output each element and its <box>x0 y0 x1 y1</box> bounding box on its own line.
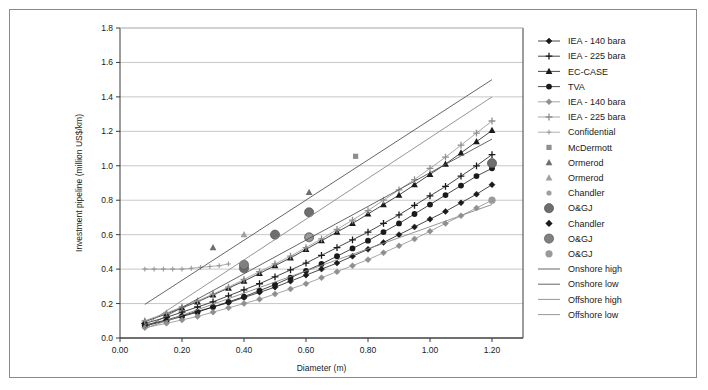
data-marker <box>396 243 402 249</box>
data-marker <box>546 114 553 121</box>
legend-item[interactable]: O&GJ <box>544 203 592 213</box>
legend-label: Ormerod <box>568 173 604 183</box>
data-marker <box>411 202 418 209</box>
data-marker <box>473 162 480 169</box>
data-marker <box>458 142 465 149</box>
legend-item[interactable]: McDermott <box>546 143 612 153</box>
legend-item[interactable]: Offshore low <box>538 310 619 320</box>
y-tick-label: 0.2 <box>101 299 113 309</box>
data-marker <box>288 286 294 292</box>
data-marker <box>546 145 551 150</box>
legend-label: O&GJ <box>568 203 593 213</box>
data-marker <box>488 197 495 204</box>
legend-item[interactable]: IEA - 140 bara <box>538 36 626 46</box>
data-marker <box>489 151 496 158</box>
data-series <box>141 127 495 324</box>
gridlines <box>120 28 523 338</box>
legend-item[interactable]: IEA - 225 bara <box>538 112 626 122</box>
legend-item[interactable]: TVA <box>538 82 585 92</box>
x-axis-title: Diameter (m) <box>297 363 347 373</box>
legend-item[interactable]: EC-CASE <box>538 67 608 77</box>
data-marker <box>473 130 480 137</box>
data-series <box>241 236 311 268</box>
legend-item[interactable]: Offshore high <box>538 295 622 305</box>
legend-label: IEA - 140 bara <box>568 36 626 46</box>
legend-label: O&GJ <box>568 234 593 244</box>
legend-label: Onshore low <box>568 279 619 289</box>
legend-item[interactable]: Ormerod <box>546 173 604 183</box>
data-marker <box>334 244 341 251</box>
y-tick-label: 0.4 <box>101 264 113 274</box>
data-marker <box>350 246 356 252</box>
y-tick-label: 1.6 <box>101 57 113 67</box>
data-marker <box>208 264 213 269</box>
data-marker <box>241 231 248 237</box>
legend-label: IEA - 225 bara <box>568 51 626 61</box>
data-marker <box>272 261 279 268</box>
legend-label: McDermott <box>568 143 613 153</box>
legend-label: Offshore low <box>568 310 619 320</box>
data-marker <box>546 84 552 90</box>
data-marker <box>474 173 480 179</box>
data-marker <box>272 291 278 297</box>
series-line <box>145 139 492 328</box>
legend-item[interactable]: IEA - 140 bara <box>538 97 626 107</box>
data-marker <box>334 253 340 259</box>
data-marker <box>427 228 433 234</box>
data-marker <box>546 159 553 165</box>
data-marker <box>412 211 418 217</box>
data-marker <box>546 38 552 44</box>
y-tick-label: 0.6 <box>101 230 113 240</box>
y-tick-label: 1.8 <box>101 23 113 33</box>
y-tick-label: 1.2 <box>101 126 113 136</box>
legend-label: IEA - 140 bara <box>568 97 626 107</box>
data-marker <box>381 229 387 235</box>
data-marker <box>544 204 553 213</box>
legend-item[interactable]: Confidential <box>538 127 616 137</box>
data-marker <box>443 192 449 198</box>
data-marker <box>396 211 403 218</box>
data-marker <box>241 294 247 300</box>
data-marker <box>544 234 553 243</box>
data-marker <box>547 130 552 135</box>
data-marker <box>142 267 147 272</box>
data-marker <box>458 173 465 180</box>
data-marker <box>256 280 263 287</box>
data-marker <box>427 216 433 222</box>
data-marker <box>427 202 433 208</box>
data-marker <box>396 221 402 227</box>
data-marker <box>318 252 325 259</box>
data-series <box>141 118 495 325</box>
data-marker <box>319 266 325 272</box>
data-marker <box>217 263 222 268</box>
data-marker <box>443 208 449 214</box>
legend-item[interactable]: O&GJ <box>545 249 592 259</box>
data-marker <box>210 244 217 250</box>
legend-item[interactable]: Ormerod <box>546 158 604 168</box>
data-marker <box>380 220 387 227</box>
data-marker <box>303 260 310 267</box>
series-line <box>145 264 229 269</box>
legend-label: O&GJ <box>568 249 593 259</box>
legend-item[interactable]: O&GJ <box>544 234 592 244</box>
data-series <box>353 154 358 159</box>
data-marker <box>489 118 496 125</box>
legend-item[interactable]: Onshore high <box>538 264 622 274</box>
y-tick-label: 1.0 <box>101 161 113 171</box>
data-marker <box>334 269 340 275</box>
x-axis-ticks: 0.000.200.400.600.801.001.20 <box>112 338 501 355</box>
data-marker <box>272 273 279 280</box>
legend-label: Chandler <box>568 219 605 229</box>
legend-item[interactable]: IEA - 225 bara <box>538 51 626 61</box>
data-marker <box>458 200 464 206</box>
x-tick-label: 0.40 <box>236 345 253 355</box>
legend-item[interactable]: Chandler <box>545 219 604 229</box>
data-series <box>142 262 231 272</box>
legend-label: Ormerod <box>568 158 604 168</box>
y-tick-label: 0.8 <box>101 195 113 205</box>
y-axis-title: Investment pipeline (million US$/km) <box>74 114 84 252</box>
legend-item[interactable]: Onshore low <box>538 279 619 289</box>
legend-item[interactable]: Chandler <box>546 188 604 198</box>
legend-label: TVA <box>568 82 585 92</box>
data-marker <box>303 244 310 251</box>
